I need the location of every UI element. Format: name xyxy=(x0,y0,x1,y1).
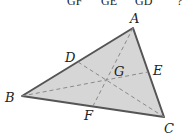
top-fragment-gf: GF xyxy=(67,0,83,8)
vertex-label-b: B xyxy=(4,90,15,105)
centroid-label-g: G xyxy=(114,64,124,79)
top-fragment-ge: GE xyxy=(101,0,117,8)
top-fragment-q: ? xyxy=(177,0,182,8)
top-fragment-gd: GD xyxy=(135,0,153,8)
triangle-abc xyxy=(22,28,164,117)
midpoint-label-e: E xyxy=(152,63,163,78)
midpoint-label-f: F xyxy=(83,108,94,123)
midpoint-label-d: D xyxy=(64,50,76,65)
triangle-diagram: GF GE GD ? A B C D E F G xyxy=(0,0,183,137)
vertex-label-a: A xyxy=(129,11,139,26)
vertex-label-c: C xyxy=(164,121,174,136)
